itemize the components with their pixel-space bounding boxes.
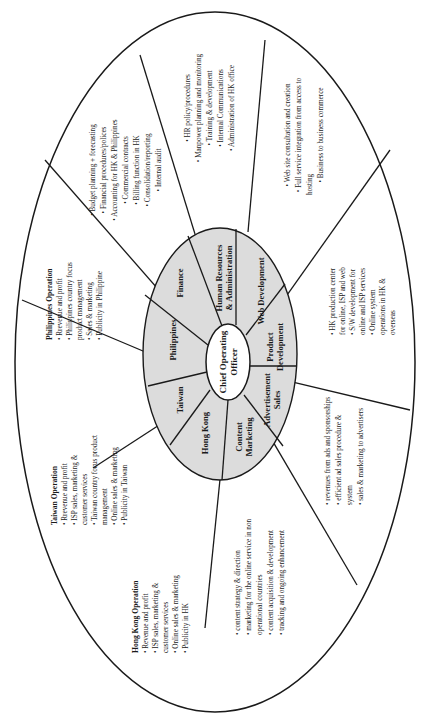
coo-node bbox=[206, 324, 250, 400]
segment-label-web: Web Development bbox=[256, 257, 266, 324]
coo-label-line2: Officer bbox=[229, 348, 239, 375]
philippines-item: • Sales & marketing bbox=[86, 282, 94, 340]
finance-item: • Consolidation/reporting bbox=[144, 133, 152, 206]
taiwan-item: • Taiwan country focus product bbox=[91, 435, 99, 525]
hongkong-item: customer services bbox=[162, 602, 170, 653]
hongkong-item: • Publicity in HK bbox=[182, 602, 190, 653]
hr-item: • Training & development bbox=[206, 71, 214, 146]
segment-label-product-line2: Development bbox=[275, 323, 285, 371]
web-item: • Full service integration from access t… bbox=[295, 77, 303, 192]
taiwan-item: • Publicity in Taiwan bbox=[121, 464, 129, 525]
taiwan-item: management bbox=[101, 488, 109, 525]
web-item: • Business to business commerce bbox=[317, 87, 325, 182]
philippines-heading: Philippines Operation bbox=[45, 268, 54, 340]
hongkong-item: • Online sales & marketing bbox=[172, 575, 180, 653]
taiwan-item: • Online sales & marketing bbox=[111, 447, 119, 525]
finance-item: • Internal audit bbox=[155, 149, 163, 192]
web-item: • Web site consultation and creation bbox=[284, 83, 292, 186]
finance-item: • Accounting for HK & Philippines bbox=[111, 119, 119, 221]
adsales-item: system bbox=[346, 485, 354, 505]
content-item: operational countries bbox=[256, 574, 264, 635]
product-item: operations in HK & bbox=[379, 278, 387, 335]
hongkong-item: • ISP sales, marketing & bbox=[152, 582, 160, 653]
product-item: • S/W development for bbox=[349, 268, 357, 335]
content-item: • content acquisition & development bbox=[267, 530, 275, 635]
hr-item: • Administration of HK office bbox=[228, 65, 236, 151]
segment-label-adsales-line1: Advertisement bbox=[262, 373, 272, 427]
taiwan-item: customer services bbox=[81, 474, 89, 525]
finance-item: • Billing function in HK bbox=[133, 134, 141, 204]
coo-label-line1: Chief Operating bbox=[218, 330, 228, 393]
product-item: for online, ISP and web bbox=[339, 267, 347, 335]
segment-label-finance: Finance bbox=[175, 268, 185, 297]
taiwan-item: • ISP sales, marketing & bbox=[71, 454, 79, 525]
product-item: • Online system bbox=[369, 289, 377, 335]
hongkong-item: • Revenue and profit bbox=[142, 594, 150, 653]
product-item: online and ISP services bbox=[359, 268, 367, 335]
adsales-item: • revenues from ads and sponsorships bbox=[324, 397, 332, 505]
adsales-item: • sales & marketing to advertisers bbox=[357, 408, 365, 505]
segment-label-adsales-line2: Sales bbox=[272, 390, 282, 409]
segment-label-hr-line1: Human Resources bbox=[214, 244, 224, 312]
org-wheel-diagram: Chief Operating Officer Finance Human Re… bbox=[0, 0, 424, 722]
finance-item: • Commercial contracts bbox=[122, 136, 130, 204]
segment-label-taiwan: Taiwan bbox=[175, 386, 185, 413]
segment-label-hr-line2: & Administration bbox=[224, 245, 234, 310]
content-item: • marketing for the online service in no… bbox=[245, 519, 253, 635]
philippines-item: • Publicity in Philippine bbox=[96, 271, 104, 340]
content-item: • tracking and ongoing enhancement bbox=[278, 530, 286, 635]
philippines-item: product management bbox=[76, 280, 84, 340]
taiwan-heading: Taiwan Operation bbox=[50, 465, 59, 525]
finance-item: • Financial procedures/polices bbox=[100, 126, 108, 213]
taiwan-item: • Rrevenue and profit bbox=[61, 463, 69, 525]
segment-label-product-line1: Product bbox=[265, 332, 275, 362]
hr-item: • Manpower planning and monitoring bbox=[195, 53, 203, 162]
finance-item: • Budget planning + forecasting bbox=[89, 124, 97, 216]
hr-item: • HR policy/procedures bbox=[184, 74, 192, 142]
content-item: • content strategy & direction bbox=[234, 550, 242, 635]
segment-label-content-line2: Marketing bbox=[244, 417, 254, 457]
web-item: hosting bbox=[306, 173, 314, 195]
segment-label-content-line1: Content bbox=[234, 422, 244, 452]
product-item: overseas bbox=[389, 310, 397, 335]
hongkong-heading: Hong Kong Operation bbox=[131, 580, 140, 653]
philippines-item: • Rrevenue and profit bbox=[56, 278, 64, 340]
hr-item: • Internal Communications bbox=[217, 69, 225, 147]
segment-label-philippines: Philippines bbox=[168, 319, 178, 361]
segment-label-hongkong: Hong Kong bbox=[200, 411, 210, 454]
philippines-item: • Philippines country focus bbox=[66, 262, 74, 340]
adsales-item: • efficient ad sales procedure & bbox=[335, 414, 343, 505]
product-item: • HK production center bbox=[329, 267, 337, 335]
